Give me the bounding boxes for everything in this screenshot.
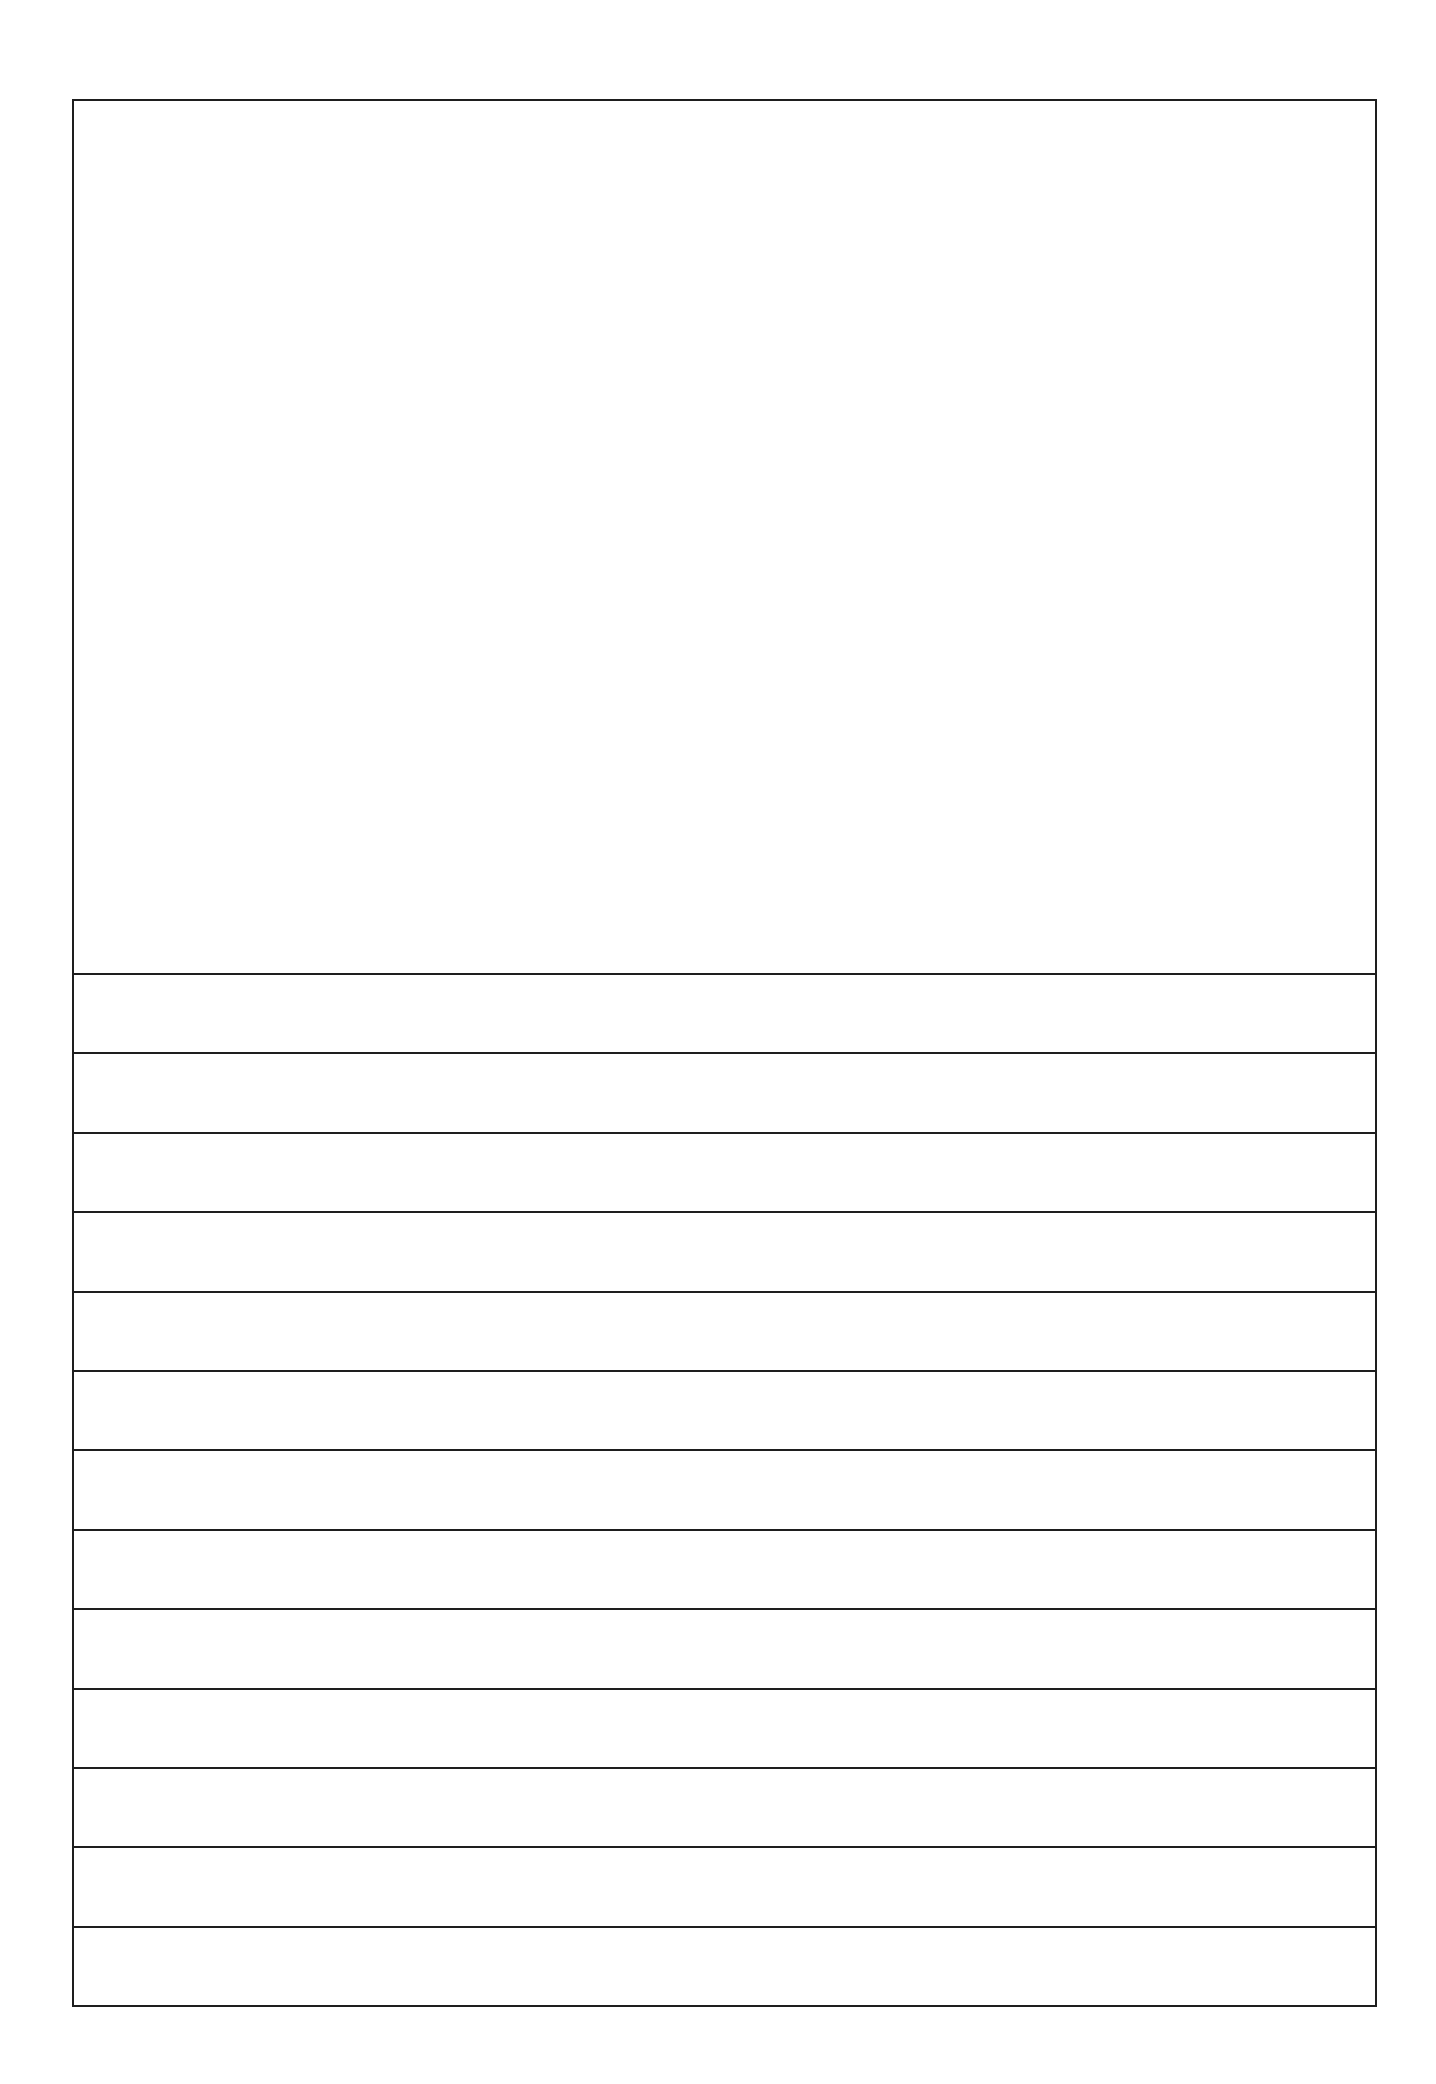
writing-line-11[interactable] xyxy=(74,1769,1375,1848)
writing-line-4[interactable] xyxy=(74,1213,1375,1292)
writing-line-10[interactable] xyxy=(74,1690,1375,1769)
story-paper-sheet xyxy=(72,99,1377,2007)
writing-line-5[interactable] xyxy=(74,1293,1375,1372)
writing-line-2[interactable] xyxy=(74,1054,1375,1133)
writing-line-7[interactable] xyxy=(74,1451,1375,1530)
writing-line-1[interactable] xyxy=(74,975,1375,1054)
writing-line-3[interactable] xyxy=(74,1134,1375,1213)
drawing-area[interactable] xyxy=(74,101,1375,975)
writing-lines xyxy=(74,975,1375,2005)
writing-line-12[interactable] xyxy=(74,1848,1375,1927)
writing-line-8[interactable] xyxy=(74,1531,1375,1610)
writing-line-6[interactable] xyxy=(74,1372,1375,1451)
writing-line-9[interactable] xyxy=(74,1610,1375,1689)
writing-line-13[interactable] xyxy=(74,1928,1375,2005)
